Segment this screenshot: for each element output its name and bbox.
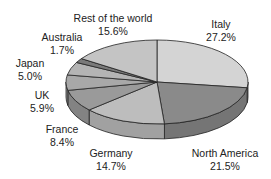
label-name: Italy	[196, 18, 246, 31]
label-value: 14.7%	[86, 160, 136, 173]
label-name: UK	[27, 89, 57, 102]
label-uk: UK 5.9%	[27, 89, 57, 115]
label-value: 1.7%	[37, 44, 87, 57]
label-value: 21.5%	[185, 160, 265, 173]
label-germany: Germany 14.7%	[86, 147, 136, 173]
label-name: Rest of the world	[68, 12, 158, 25]
label-name: Japan	[10, 57, 50, 70]
label-italy: Italy 27.2%	[196, 18, 246, 44]
label-value: 27.2%	[196, 31, 246, 44]
label-name: France	[37, 123, 87, 136]
label-name: North America	[185, 147, 265, 160]
label-value: 5.9%	[27, 102, 57, 115]
label-rest-of-world: Rest of the world 15.6%	[68, 12, 158, 38]
label-japan: Japan 5.0%	[10, 57, 50, 83]
label-france: France 8.4%	[37, 123, 87, 149]
label-north-america: North America 21.5%	[185, 147, 265, 173]
pie-slice-italy	[157, 40, 248, 88]
label-value: 8.4%	[37, 136, 87, 149]
label-value: 15.6%	[68, 25, 158, 38]
label-value: 5.0%	[10, 70, 50, 83]
label-name: Germany	[86, 147, 136, 160]
